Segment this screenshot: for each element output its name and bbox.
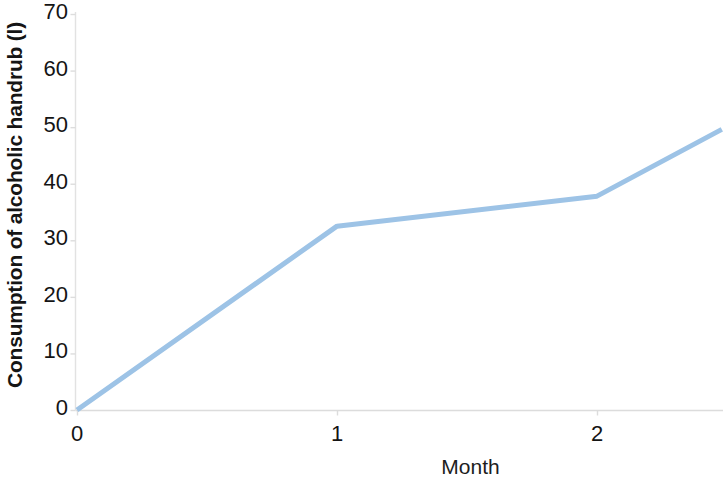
x-tick-label: 2 [577,421,617,447]
data-line-consumption [77,129,722,410]
y-tick-label: 10 [22,338,68,364]
data-series-group [77,129,722,410]
y-tick-label: 30 [22,225,68,251]
line-chart: Consumption of alcoholic handrub (l) 010… [0,0,723,487]
y-tick-label: 50 [22,112,68,138]
x-axis-title: Month [0,455,723,479]
axis-lines [76,12,723,411]
y-tick-label: 40 [22,169,68,195]
y-tick-label: 60 [22,56,68,82]
plot-area [0,0,723,487]
y-tick-label: 0 [22,395,68,421]
x-tick-label: 0 [57,421,97,447]
x-axis-title-text: Month [441,455,499,478]
y-tick-label: 70 [22,0,68,25]
y-tick-marks [71,15,76,411]
y-tick-label: 20 [22,282,68,308]
x-tick-label: 1 [317,421,357,447]
